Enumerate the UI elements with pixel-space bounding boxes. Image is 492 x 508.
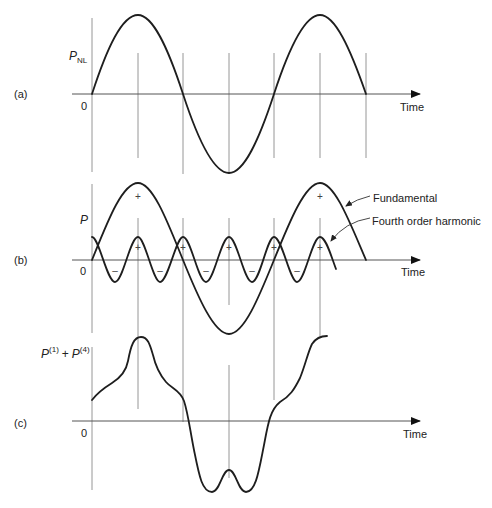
svg-text:–: –	[112, 265, 118, 276]
time-label-a: Time	[400, 101, 424, 113]
panel-c: (c) 0 Time P(1)+P(4)	[14, 336, 427, 492]
svg-text:+: +	[135, 242, 141, 253]
grid-lines-c	[92, 338, 320, 490]
grid-lines-a	[92, 18, 366, 174]
y-label-b: P	[80, 213, 88, 227]
y-label-c: P(1)+P(4)	[41, 345, 90, 361]
svg-text:+: +	[317, 191, 323, 202]
panel-a: (a) 0 Time PNL	[14, 15, 424, 174]
origin-label-c: 0	[81, 427, 87, 439]
panel-label-c: (c)	[14, 417, 27, 429]
grid-lines-b	[92, 184, 320, 422]
svg-text:–: –	[294, 265, 300, 276]
sum-curve	[92, 336, 327, 492]
time-label-c: Time	[403, 428, 427, 440]
sign-markers-b: + + + + + + + – – – – –	[112, 191, 323, 276]
harmonic-decomposition-diagram: (a) 0 Time PNL + + + + + + + – – – –	[0, 0, 492, 508]
svg-text:+: +	[180, 242, 186, 253]
svg-text:+: +	[271, 242, 277, 253]
panel-label-a: (a)	[14, 88, 27, 100]
panel-b: + + + + + + + – – – – – Fundamental Four…	[14, 183, 481, 422]
svg-text:–: –	[157, 265, 163, 276]
svg-text:–: –	[249, 265, 255, 276]
y-label-a: PNL	[69, 49, 88, 65]
panel-label-b: (b)	[14, 254, 27, 266]
origin-label-b: 0	[80, 265, 86, 277]
svg-text:+: +	[135, 191, 141, 202]
fourth-harmonic-label: Fourth order harmonic	[372, 215, 481, 227]
fundamental-pointer	[346, 196, 370, 206]
time-label-b: Time	[401, 266, 425, 278]
svg-text:+: +	[226, 242, 232, 253]
fundamental-label: Fundamental	[373, 192, 437, 204]
svg-text:+: +	[317, 242, 323, 253]
origin-label-a: 0	[81, 100, 87, 112]
svg-text:–: –	[203, 265, 209, 276]
harmonic-pointer	[331, 218, 370, 241]
